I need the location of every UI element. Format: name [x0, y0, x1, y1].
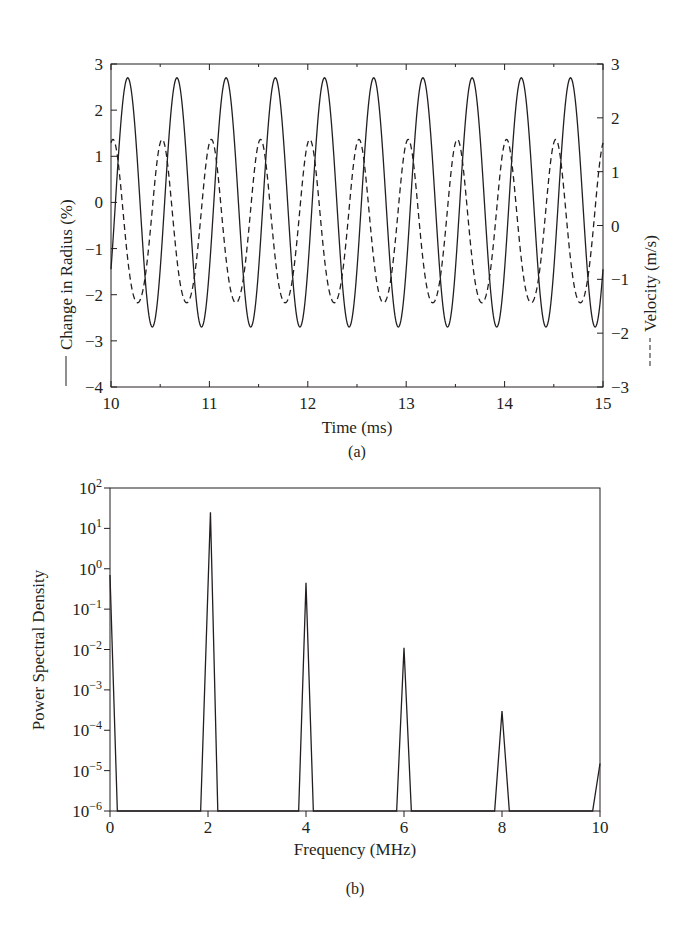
- y-tick-label: −3: [85, 332, 103, 351]
- panel-b-ticks: 024681010210110010−110−210−310−410−510−6: [72, 476, 608, 837]
- panel-b-y-axis-label: Power Spectral Density: [29, 569, 48, 730]
- psd-line: [110, 512, 600, 811]
- y-tick-label: 102: [79, 476, 102, 498]
- velocity-line: [111, 139, 603, 302]
- y2-tick-label: −3: [611, 378, 629, 397]
- y-tick-label: 2: [95, 101, 104, 120]
- figure: 1011121314153210−1−2−3−43210−1−2−3 Time …: [0, 0, 690, 938]
- y2-tick-label: 1: [611, 163, 620, 182]
- x-tick-label: 14: [496, 394, 514, 413]
- x-tick-label: 12: [299, 394, 316, 413]
- y2-tick-label: 3: [611, 55, 620, 74]
- y-tick-label: −4: [85, 378, 104, 397]
- panel-a-caption: (a): [348, 443, 366, 461]
- panel-b-frame: [110, 488, 600, 811]
- panel-a-curves: [111, 78, 603, 327]
- panel-a-chart: 1011121314153210−1−2−3−43210−1−2−3 Time …: [57, 55, 660, 461]
- y2-tick-label: 0: [611, 217, 620, 236]
- x-tick-label: 10: [103, 394, 120, 413]
- y-tick-label: 3: [95, 55, 104, 74]
- x-tick-label: 8: [498, 818, 507, 837]
- x-tick-label: 4: [302, 818, 311, 837]
- x-tick-label: 13: [398, 394, 415, 413]
- x-tick-label: 10: [592, 818, 609, 837]
- x-tick-label: 11: [201, 394, 217, 413]
- y2-tick-label: −1: [611, 270, 629, 289]
- x-tick-label: 0: [106, 818, 115, 837]
- y-tick-label: 10−1: [72, 597, 102, 619]
- y-tick-label: 10−6: [72, 799, 102, 821]
- y-tick-label: 10−5: [72, 759, 102, 781]
- y-tick-label: 10−3: [72, 678, 102, 700]
- x-tick-label: 6: [400, 818, 409, 837]
- panel-a-ticks: 1011121314153210−1−2−3−43210−1−2−3: [85, 55, 629, 413]
- y-tick-label: 100: [79, 557, 102, 579]
- panel-b-curves: [110, 512, 600, 811]
- panel-b-caption: (b): [346, 880, 365, 898]
- y-tick-label: 0: [95, 193, 104, 212]
- panel-a-y-axis-label: Change in Radius (%): [57, 199, 76, 350]
- y2-tick-label: −2: [611, 324, 629, 343]
- x-tick-label: 2: [204, 818, 213, 837]
- radius-line: [111, 78, 603, 327]
- panel-a-x-axis-label: Time (ms): [322, 418, 393, 437]
- y-tick-label: 1: [95, 147, 104, 166]
- y-tick-label: 101: [79, 516, 102, 538]
- panel-a-frame: [111, 64, 603, 387]
- panel-b-chart: 024681010210110010−110−210−310−410−510−6…: [29, 476, 609, 898]
- y-tick-label: 10−4: [72, 718, 102, 740]
- y-tick-label: −1: [85, 240, 103, 259]
- panel-a-y2-axis-label: Velocity (m/s): [641, 235, 660, 332]
- y-tick-label: 10−2: [72, 638, 102, 660]
- panel-b-x-axis-label: Frequency (MHz): [294, 840, 416, 859]
- y-tick-label: −2: [85, 286, 103, 305]
- y2-tick-label: 2: [611, 109, 620, 128]
- x-tick-label: 15: [595, 394, 612, 413]
